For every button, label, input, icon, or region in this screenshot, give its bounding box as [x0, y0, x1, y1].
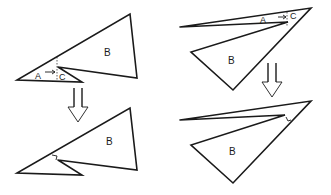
label-c: C [59, 72, 66, 82]
down-arrow-icon [68, 88, 88, 122]
sliver-and-triangle-outline [180, 101, 311, 183]
joint-mark [52, 155, 57, 160]
panel-right-before: A C B [180, 8, 311, 90]
diagram-canvas: A C B B A C B B [0, 0, 331, 195]
label-a: A [260, 15, 266, 25]
down-arrow-right [262, 63, 282, 97]
label-c: C [290, 11, 297, 21]
panel-right-after: B [180, 101, 311, 183]
panel-left-before: A C B [17, 14, 137, 82]
label-b: B [229, 146, 236, 157]
label-b: B [228, 55, 235, 66]
label-b: B [106, 136, 113, 147]
label-a: A [35, 71, 41, 81]
down-arrow-left [68, 88, 88, 122]
joint-mark [286, 117, 291, 121]
label-b: B [104, 47, 111, 58]
down-arrow-icon [262, 63, 282, 97]
